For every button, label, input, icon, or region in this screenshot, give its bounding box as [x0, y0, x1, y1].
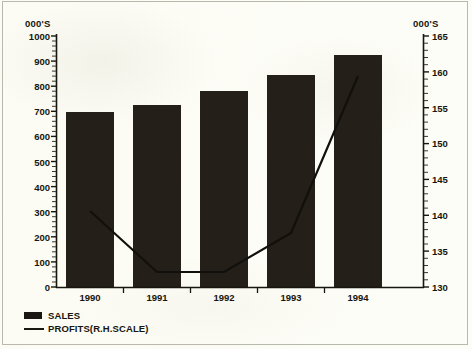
legend-label-profits: PROFITS(R.H.SCALE)	[48, 323, 149, 334]
x-axis-label-1994: 1994	[328, 292, 388, 303]
legend-item-profits: PROFITS(R.H.SCALE)	[24, 322, 264, 335]
legend-label-sales: SALES	[48, 310, 80, 321]
legend-swatch-line-icon	[24, 328, 48, 330]
bar-sales-1992	[200, 91, 248, 287]
bar-sales-1993	[267, 75, 315, 287]
x-axis-label-1990: 1990	[60, 292, 120, 303]
bar-sales-1994	[334, 55, 382, 287]
legend-item-sales: SALES	[24, 309, 264, 322]
x-axis-label-1992: 1992	[194, 292, 254, 303]
right-axis-minor-ticks	[424, 43, 428, 280]
chart-legend: SALES PROFITS(R.H.SCALE)	[24, 309, 264, 335]
bar-sales-1990	[66, 112, 114, 287]
chart-page: 000'S 000'S 1000 900 800 700 600 500 400…	[0, 0, 472, 349]
x-axis-label-1991: 1991	[127, 292, 187, 303]
bar-sales-1991	[133, 105, 181, 287]
legend-swatch-bar-icon	[24, 312, 48, 319]
x-axis-label-1993: 1993	[261, 292, 321, 303]
